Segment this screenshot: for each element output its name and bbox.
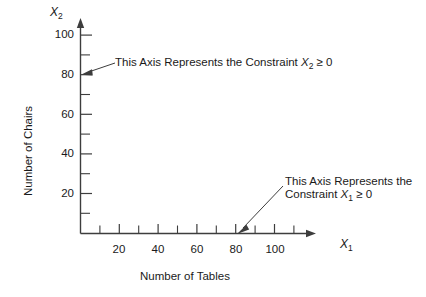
annotation-x-line1: This Axis Represents the <box>285 175 412 188</box>
annotation-y-variable: X <box>301 56 309 68</box>
y-tick-label-20: 20 <box>44 187 74 200</box>
y-axis-major-ticks <box>81 35 93 193</box>
annotation-x-text-suffix: ≥ 0 <box>353 188 372 200</box>
x-axis-symbol-label: X1 <box>340 238 353 254</box>
x-annotation-leader <box>237 186 283 234</box>
x-tick-label-80: 80 <box>221 243 251 256</box>
x-axis-title: Number of Tables <box>140 270 230 283</box>
annotation-y-text-suffix: ≥ 0 <box>313 56 332 68</box>
x-tick-label-60: 60 <box>182 243 212 256</box>
annotation-y-axis-constraint: This Axis Represents the Constraint X2 ≥… <box>115 56 333 72</box>
y-tick-label-80: 80 <box>44 68 74 81</box>
y-axis-title: Number of Chairs <box>22 106 35 196</box>
x-tick-label-20: 20 <box>104 243 134 256</box>
y-tick-label-100: 100 <box>38 28 74 41</box>
y-axis-symbol-label: X2 <box>50 6 63 22</box>
y-tick-label-40: 40 <box>44 147 74 160</box>
x-axis-arrowhead <box>306 230 316 237</box>
annotation-x-axis-constraint: This Axis Represents the Constraint X1 ≥… <box>285 175 412 204</box>
annotation-y-text-prefix: This Axis Represents the Constraint <box>115 56 301 68</box>
y-tick-label-60: 60 <box>44 108 74 121</box>
x-axis-major-ticks <box>119 224 274 234</box>
y-axis-minor-ticks <box>81 55 91 213</box>
annotation-x-text-prefix: Constraint <box>285 188 341 200</box>
x-tick-label-100: 100 <box>258 243 292 256</box>
annotation-x-line2: Constraint X1 ≥ 0 <box>285 188 412 204</box>
x-tick-label-40: 40 <box>143 243 173 256</box>
y-annotation-leader <box>81 63 115 76</box>
y-axis-arrowhead <box>77 18 84 28</box>
